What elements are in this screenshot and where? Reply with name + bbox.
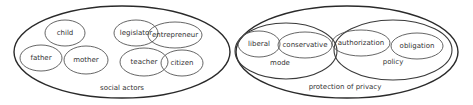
node-label: authorization: [338, 39, 384, 47]
protection-of-privacy-set: protection of privacy mode liberal conse…: [235, 6, 458, 98]
mode-set: mode liberal conservative: [235, 23, 337, 79]
node-child: child: [45, 20, 85, 46]
mode-label: mode: [270, 59, 290, 67]
mode-ellipse: [235, 23, 337, 79]
node-authorization: authorization: [332, 30, 390, 56]
node-label: liberal: [248, 40, 270, 48]
diagram-canvas: social actors child legislator entrepren…: [0, 0, 473, 105]
node-label: citizen: [171, 59, 194, 67]
node-label: father: [30, 54, 51, 62]
social-actors-set: social actors child legislator entrepren…: [14, 6, 230, 98]
node-label: conservative: [283, 41, 328, 49]
node-label: child: [57, 29, 74, 37]
node-conservative: conservative: [278, 32, 332, 58]
node-citizen: citizen: [161, 50, 203, 76]
node-label: teacher: [131, 58, 158, 66]
node-label: obligation: [400, 42, 435, 50]
social-actors-label: social actors: [100, 84, 144, 92]
node-obligation: obligation: [391, 33, 443, 59]
policy-label: policy: [383, 58, 404, 66]
node-liberal: liberal: [238, 31, 280, 57]
node-label: legislator: [120, 29, 153, 37]
node-father: father: [20, 45, 62, 71]
node-mother: mother: [64, 46, 108, 74]
policy-ellipse: [334, 20, 452, 80]
policy-set: policy authorization obligation: [332, 20, 452, 80]
protection-of-privacy-label: protection of privacy: [309, 83, 382, 91]
node-label: entrepreneur: [152, 31, 198, 39]
node-entrepreneur: entrepreneur: [148, 22, 202, 48]
node-label: mother: [73, 56, 99, 64]
